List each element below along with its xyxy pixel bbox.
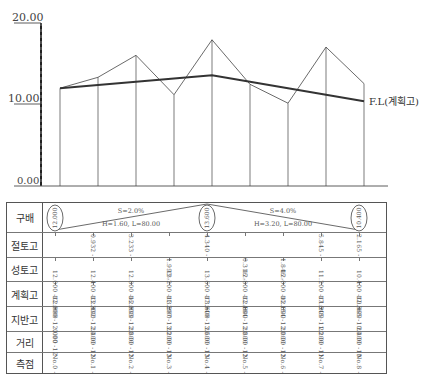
cut-cell: 0.932 -	[85, 233, 101, 257]
cut-cell-value: 3.233 -	[128, 234, 135, 257]
station-tick	[131, 258, 132, 261]
station-tick	[169, 233, 170, 236]
gradient-circle-value: 13.600	[203, 207, 210, 228]
station-cell-value: No.7 -	[318, 354, 325, 374]
station-cell-value: No.6 -	[280, 354, 287, 374]
station-cell: No.0 -	[47, 353, 63, 374]
gradient-detail: H=3.20, L=80.00	[254, 220, 312, 228]
station-cell-value: No.2 -	[128, 354, 135, 374]
row-label-fill: 성토고	[7, 258, 43, 281]
row-plan: 계획고 12.000 -12.00012.400 -12.40012.800 -…	[7, 282, 386, 307]
row-fill: 성토고 1.993 -0.316 -1.846 -	[7, 258, 386, 282]
distance-cell-value: 0.00 -12	[52, 329, 59, 356]
station-verticals	[60, 40, 364, 186]
gradient-slope: S=4.0%	[270, 207, 296, 215]
cut-cell: 5.845 -	[313, 233, 329, 257]
y-axis: 20.00 10.00 0.00	[8, 11, 44, 186]
row-gradient: 구배 12.00013.60010.400S=2.0%H=1.60, L=80.…	[7, 203, 386, 233]
distance-cell: 20.00 -12	[237, 332, 253, 352]
station-cell-value: No.1 -	[90, 354, 97, 374]
distance-cell: 20.00 -12	[275, 332, 291, 352]
profile-chart: 20.00 10.00 0.00 F.L(계획고)	[0, 0, 432, 195]
gradient-circle-value: 12.000	[51, 207, 58, 228]
row-cut: 절토고 0.932 -3.233 -4.340 -5.845 -2.165 -	[7, 233, 386, 258]
gradient-detail: H=1.60, L=80.00	[102, 220, 160, 228]
cut-cell-value: 0.932 -	[90, 234, 97, 257]
station-tick	[321, 258, 322, 261]
station-cell-value: No.3 -	[166, 354, 173, 374]
distance-cell: 20.00 -13	[199, 332, 215, 352]
station-cell-value: No.0 -	[52, 354, 59, 374]
fl-label: F.L(계획고)	[369, 96, 419, 107]
distance-cell: 20.00 -13	[161, 332, 177, 352]
row-label-plan: 계획고	[7, 282, 43, 306]
row-station: 측점 No.0 -No.1 -No.2 -No.3 -No.4 -No.5 -N…	[7, 353, 386, 374]
station-cell-value: No.5 -	[242, 354, 249, 374]
station-tick	[55, 258, 56, 261]
cut-cell-value: 2.165 -	[356, 234, 363, 257]
station-tick	[245, 233, 246, 236]
station-cell: No.2 -	[123, 353, 139, 374]
row-label-distance: 거리	[7, 332, 43, 352]
distance-cell: 20.00 -12	[85, 332, 101, 352]
station-cell: No.7 -	[313, 353, 329, 374]
station-tick	[207, 258, 208, 261]
cut-cell: 4.340 -	[199, 233, 215, 257]
gradient-diagram: 12.00013.60010.400S=2.0%H=1.60, L=80.00S…	[43, 203, 387, 233]
row-distance: 거리 0.00 -1220.00 -1220.00 -1220.00 -1320…	[7, 332, 386, 353]
gradient-circle-value: 10.400	[355, 207, 362, 228]
station-cell: No.8 -	[351, 353, 367, 374]
row-label-cut: 절토고	[7, 233, 43, 257]
cut-cell: 2.165 -	[351, 233, 367, 257]
station-tick	[55, 233, 56, 236]
gradient-slope: S=2.0%	[118, 207, 144, 215]
station-tick	[93, 258, 94, 261]
distance-cell: 0.00 -12	[47, 332, 63, 352]
station-cell: No.3 -	[161, 353, 177, 374]
row-ground: 지반고 12.000 -12.00013.332 -12.40016.033 -…	[7, 307, 386, 332]
y-label-top: 20.00	[12, 11, 44, 24]
row-label-station: 측점	[7, 353, 43, 374]
distance-cell: 20.00 -10	[351, 332, 367, 352]
station-cell: No.6 -	[275, 353, 291, 374]
distance-cell: 20.00 -12	[123, 332, 139, 352]
cut-cell-value: 4.340 -	[204, 234, 211, 257]
station-cell-value: No.8 -	[356, 354, 363, 374]
distance-cell: 20.00 -11	[313, 332, 329, 352]
station-tick	[283, 233, 284, 236]
station-cell: No.1 -	[85, 353, 101, 374]
row-label-gradient: 구배	[7, 203, 43, 232]
profile-table: 구배 12.00013.60010.400S=2.0%H=1.60, L=80.…	[6, 202, 387, 374]
cut-cell-value: 5.845 -	[318, 234, 325, 257]
station-cell-value: No.4 -	[204, 354, 211, 374]
y-label-bottom: 0.00	[17, 175, 39, 186]
station-cell: No.4 -	[199, 353, 215, 374]
ground-cell: 12.000 -12.000	[47, 307, 63, 331]
station-cell: No.5 -	[237, 353, 253, 374]
row-label-ground: 지반고	[7, 307, 43, 331]
cut-cell: 3.233 -	[123, 233, 139, 257]
station-tick	[359, 258, 360, 261]
y-label-mid: 10.00	[8, 92, 40, 105]
